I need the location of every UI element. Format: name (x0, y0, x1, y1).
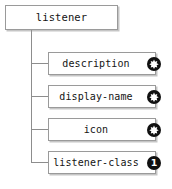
node-listener-class-label: listener-class (53, 157, 139, 168)
node-icon-label: icon (84, 124, 108, 135)
connector-branch-display-name (31, 96, 49, 97)
occurrence-one-label: 1 (151, 158, 158, 168)
node-listener-class[interactable]: listener-class 1 (48, 151, 156, 174)
node-description-label: description (62, 58, 129, 69)
occurrence-star-icon (147, 90, 161, 104)
connector-branch-icon (31, 129, 49, 130)
node-icon[interactable]: icon (48, 118, 156, 141)
occurrence-star-icon (147, 123, 161, 137)
node-listener[interactable]: listener (5, 5, 118, 30)
occurrence-one-icon: 1 (147, 156, 161, 170)
node-listener-label: listener (36, 12, 87, 23)
occurrence-star-icon (147, 57, 161, 71)
node-description[interactable]: description (48, 52, 156, 75)
node-display-name[interactable]: display-name (48, 85, 156, 108)
node-display-name-label: display-name (59, 91, 132, 102)
connector-branch-description (31, 63, 49, 64)
connector-branch-listener-class (31, 162, 49, 163)
schema-tree-diagram: listener description display-name icon l… (0, 0, 172, 189)
